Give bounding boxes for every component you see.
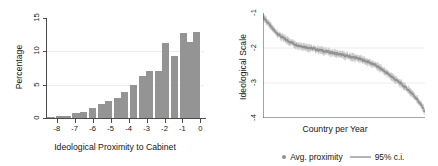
histogram-y-tick-label: 10 xyxy=(32,45,41,57)
histogram-bar xyxy=(105,101,113,118)
scatter-legend: Avg. proximity 95% c.i. xyxy=(247,152,438,162)
histogram-y-tick-label: 15 xyxy=(32,12,41,24)
histogram-x-tick-label: -1 xyxy=(174,124,190,133)
histogram-y-axis-label: Percentage xyxy=(14,34,24,100)
histogram-x-tick xyxy=(200,119,201,123)
scatter-plot-area xyxy=(263,13,425,118)
legend-label-avg-proximity: Avg. proximity xyxy=(290,152,342,162)
histogram-y-tick xyxy=(43,118,47,119)
histogram-bar xyxy=(130,85,138,118)
scatter-confidence-interval xyxy=(263,13,425,115)
histogram-x-tick-label: 0 xyxy=(192,124,208,133)
histogram-bar xyxy=(193,32,201,118)
scatter-avg-proximity-points xyxy=(263,15,425,112)
scatter-y-tick-label: -1 xyxy=(249,7,258,19)
histogram-x-tick-label: -3 xyxy=(139,124,155,133)
histogram-bar xyxy=(162,43,170,118)
histogram-bar xyxy=(121,92,129,118)
histogram-y-tick xyxy=(43,51,47,52)
histogram-x-tick xyxy=(111,119,112,123)
histogram-x-tick xyxy=(57,119,58,123)
scatter-y-tick-label: -2 xyxy=(249,42,258,54)
histogram-bar xyxy=(171,56,179,118)
histogram-x-tick xyxy=(147,119,148,123)
scatter-y-tick-label: -4 xyxy=(249,112,258,124)
histogram-y-tick xyxy=(43,18,47,19)
legend-entry-avg-proximity: Avg. proximity xyxy=(282,152,343,162)
histogram-x-tick-label: -7 xyxy=(67,124,83,133)
histogram-x-tick xyxy=(165,119,166,123)
histogram-x-axis-label: Ideological Proximity to Cabinet xyxy=(22,142,208,152)
histogram-x-tick-label: -2 xyxy=(157,124,173,133)
figure-two-panel: Percentage Ideological Proximity to Cabi… xyxy=(0,0,438,166)
histogram-x-tick xyxy=(93,119,94,123)
histogram-x-tick xyxy=(182,119,183,123)
scatter-svg xyxy=(263,13,425,118)
scatter-y-axis-label: Ideological Scale xyxy=(238,28,248,106)
legend-dot-icon xyxy=(282,155,287,160)
panel-scatter: Ideological Scale Country per Year Avg. … xyxy=(219,0,438,166)
legend-label-confidence-interval: 95% c.i. xyxy=(375,152,405,162)
legend-line-icon xyxy=(350,156,371,157)
histogram-bar xyxy=(146,71,154,118)
histogram-x-tick-label: -8 xyxy=(49,124,65,133)
histogram-y-tick xyxy=(43,85,47,86)
histogram-y-tick-label: 5 xyxy=(32,78,41,90)
histogram-plot-area xyxy=(46,18,204,118)
scatter-y-tick-label: -3 xyxy=(249,77,258,89)
histogram-x-tick-label: -5 xyxy=(103,124,119,133)
scatter-x-axis-label: Country per Year xyxy=(245,124,425,134)
histogram-x-tick xyxy=(129,119,130,123)
histogram-y-axis-line xyxy=(46,18,47,119)
histogram-x-tick-label: -4 xyxy=(121,124,137,133)
legend-entry-confidence-interval: 95% c.i. xyxy=(350,152,405,162)
histogram-y-tick-label: 0 xyxy=(32,112,41,124)
histogram-x-tick xyxy=(75,119,76,123)
histogram-bar xyxy=(89,108,97,118)
panel-histogram: Percentage Ideological Proximity to Cabi… xyxy=(0,0,219,166)
histogram-x-tick-label: -6 xyxy=(85,124,101,133)
